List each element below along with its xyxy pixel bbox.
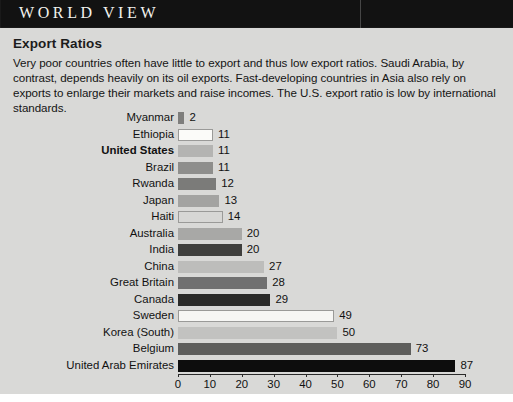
x-axis-tick bbox=[369, 374, 370, 377]
x-axis-tick-label: 90 bbox=[459, 378, 472, 390]
row-category-label: Haiti bbox=[151, 210, 174, 222]
chart-row: Australia20 bbox=[0, 226, 513, 243]
bar-value-label: 28 bbox=[272, 276, 285, 288]
chart-row: India20 bbox=[0, 242, 513, 259]
row-category-label: Korea (South) bbox=[103, 326, 174, 338]
bar-value-label: 73 bbox=[416, 342, 429, 354]
banner-title: WORLD VIEW bbox=[19, 4, 159, 22]
bar-value-label: 50 bbox=[342, 326, 355, 338]
x-axis-tick-label: 30 bbox=[267, 378, 280, 390]
bar-value-label: 11 bbox=[218, 144, 230, 156]
x-axis-line bbox=[178, 374, 465, 375]
bar-value-label: 29 bbox=[275, 293, 288, 305]
row-category-label: Japan bbox=[143, 194, 174, 206]
chart-row: United Arab Emirates87 bbox=[0, 358, 513, 375]
bar-value-label: 20 bbox=[247, 227, 260, 239]
x-axis-tick-label: 40 bbox=[299, 378, 312, 390]
page-bottom-margin bbox=[0, 394, 513, 402]
row-category-label: India bbox=[149, 243, 174, 255]
export-ratios-bar-chart: Myanmar2Ethiopia11United States11Brazil1… bbox=[0, 110, 513, 402]
chart-row: Great Britain28 bbox=[0, 275, 513, 292]
row-category-label: Great Britain bbox=[110, 276, 174, 288]
x-axis-tick bbox=[337, 374, 338, 377]
x-axis-tick bbox=[274, 374, 275, 377]
x-axis-tick bbox=[210, 374, 211, 377]
bar bbox=[178, 277, 267, 289]
bar bbox=[178, 343, 411, 355]
bar-track bbox=[178, 211, 223, 223]
x-axis-tick bbox=[433, 374, 434, 377]
article-panel: Export Ratios Very poor countries often … bbox=[0, 28, 513, 402]
page-title: Export Ratios bbox=[13, 36, 102, 51]
bar bbox=[178, 244, 242, 256]
x-axis-tick bbox=[242, 374, 243, 377]
chart-row: United States11 bbox=[0, 143, 513, 160]
row-category-label: China bbox=[144, 260, 174, 272]
bar-value-label: 11 bbox=[218, 161, 230, 173]
chart-row: Belgium73 bbox=[0, 341, 513, 358]
bar-track bbox=[178, 310, 334, 322]
row-category-label: Canada bbox=[134, 293, 174, 305]
chart-row: Myanmar2 bbox=[0, 110, 513, 127]
chart-row: Canada29 bbox=[0, 292, 513, 309]
bar-value-label: 27 bbox=[269, 260, 282, 272]
bar-value-label: 49 bbox=[339, 309, 352, 321]
bar-track bbox=[178, 244, 242, 256]
bar-track bbox=[178, 178, 216, 190]
bar-track bbox=[178, 294, 270, 306]
banner-divider bbox=[360, 0, 361, 28]
bar bbox=[178, 294, 270, 306]
x-axis-tick-label: 70 bbox=[395, 378, 408, 390]
chart-rows: Myanmar2Ethiopia11United States11Brazil1… bbox=[0, 110, 513, 374]
bar-track bbox=[178, 145, 213, 157]
chart-row: Brazil11 bbox=[0, 160, 513, 177]
bar bbox=[178, 228, 242, 240]
bar-track bbox=[178, 327, 337, 339]
x-axis-tick-label: 0 bbox=[175, 378, 181, 390]
bar bbox=[178, 112, 184, 124]
bar-track bbox=[178, 261, 264, 273]
bar-track bbox=[178, 112, 184, 124]
row-category-label: Sweden bbox=[133, 309, 174, 321]
x-axis-tick bbox=[306, 374, 307, 377]
x-axis-tick-label: 80 bbox=[427, 378, 440, 390]
row-category-label: Rwanda bbox=[132, 177, 174, 189]
row-category-label: Ethiopia bbox=[133, 128, 174, 140]
bar-track bbox=[178, 195, 219, 207]
bar-track bbox=[178, 343, 411, 355]
bar-track bbox=[178, 360, 455, 372]
x-axis-tick-label: 60 bbox=[363, 378, 376, 390]
bar bbox=[178, 261, 264, 273]
bar bbox=[178, 162, 213, 174]
article-body-text: Very poor countries often have little to… bbox=[13, 55, 500, 115]
chart-row: China27 bbox=[0, 259, 513, 276]
bar-track bbox=[178, 228, 242, 240]
bar bbox=[178, 310, 334, 322]
bar bbox=[178, 195, 219, 207]
bar-value-label: 13 bbox=[224, 194, 237, 206]
row-category-label: Myanmar bbox=[127, 111, 174, 123]
x-axis-tick bbox=[178, 374, 179, 377]
world-view-figure: WORLD VIEW Export Ratios Very poor count… bbox=[0, 0, 513, 402]
bar bbox=[178, 129, 213, 141]
x-axis-tick-label: 50 bbox=[331, 378, 344, 390]
chart-row: Sweden49 bbox=[0, 308, 513, 325]
row-category-label: United Arab Emirates bbox=[66, 359, 174, 371]
bar-value-label: 87 bbox=[460, 359, 473, 371]
chart-row: Haiti14 bbox=[0, 209, 513, 226]
bar-value-label: 14 bbox=[228, 210, 241, 222]
row-category-label: Belgium bbox=[133, 342, 174, 354]
bar-value-label: 11 bbox=[218, 128, 230, 140]
bar-track bbox=[178, 162, 213, 174]
row-category-label: Brazil bbox=[146, 161, 174, 173]
row-category-label: United States bbox=[101, 144, 174, 156]
x-axis-tick-label: 20 bbox=[235, 378, 248, 390]
bar-track bbox=[178, 129, 213, 141]
world-view-banner: WORLD VIEW bbox=[0, 0, 513, 28]
chart-row: Korea (South)50 bbox=[0, 325, 513, 342]
bar bbox=[178, 327, 337, 339]
chart-row: Ethiopia11 bbox=[0, 127, 513, 144]
chart-row: Japan13 bbox=[0, 193, 513, 210]
row-category-label: Australia bbox=[130, 227, 174, 239]
chart-row: Rwanda12 bbox=[0, 176, 513, 193]
